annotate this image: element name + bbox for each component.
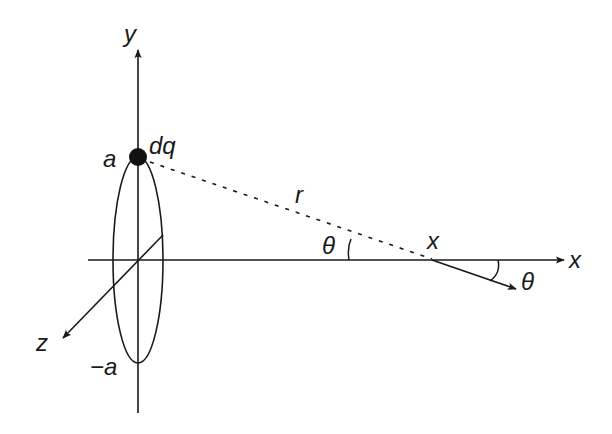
charge-element-label: dq — [149, 132, 176, 159]
field-vector — [432, 260, 516, 289]
point-x-label: x — [426, 227, 440, 254]
angle-theta-label: θ — [322, 232, 335, 259]
x-axis-label: x — [568, 246, 582, 273]
distance-label: r — [295, 181, 304, 208]
ring-charge-diagram: y x z a −a dq r θ x θ — [0, 0, 612, 434]
charge-element-dot — [129, 148, 147, 166]
distance-line-r — [150, 162, 432, 259]
top-radius-label: a — [103, 145, 116, 172]
z-axis-label: z — [35, 329, 48, 356]
angle-arc-field — [490, 260, 499, 281]
field-angle-label: θ — [521, 268, 534, 295]
y-axis-label: y — [122, 20, 138, 47]
angle-arc-theta — [348, 239, 351, 260]
bottom-radius-label: −a — [90, 353, 117, 380]
